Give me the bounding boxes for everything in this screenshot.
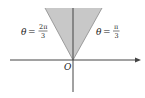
label-two-pi-over-three: θ = 2π 3 [21, 23, 48, 40]
equals-sign: = [28, 27, 36, 37]
equals-sign: = [103, 27, 111, 37]
fraction-denominator: 3 [115, 32, 119, 40]
fraction-numerator: π [114, 23, 119, 31]
x-axis-arrow-icon [135, 58, 141, 63]
theta-symbol: θ [96, 27, 102, 37]
label-pi-over-three: θ = π 3 [96, 23, 120, 40]
fraction-denominator: 3 [41, 32, 45, 40]
origin-label: O [64, 62, 72, 72]
fraction-numerator: 2π [39, 23, 48, 31]
polar-sector-diagram: O θ = 2π 3 θ = π 3 [0, 0, 145, 98]
theta-symbol: θ [21, 27, 27, 37]
